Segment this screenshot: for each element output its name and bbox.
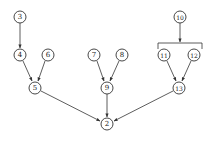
node-label: 12 bbox=[190, 52, 198, 59]
node-label: 7 bbox=[92, 51, 96, 59]
dependency-diagram: 3 4 6 5 7 8 9 10 11 12 13 2 bbox=[0, 0, 219, 141]
node-8: 8 bbox=[116, 49, 128, 61]
node-2: 2 bbox=[101, 118, 113, 130]
node-6: 6 bbox=[42, 49, 54, 61]
edge-8-9 bbox=[110, 61, 119, 81]
node-9: 9 bbox=[101, 82, 113, 94]
node-label: 2 bbox=[105, 120, 109, 128]
edge-6-5 bbox=[38, 61, 45, 81]
node-7: 7 bbox=[88, 49, 100, 61]
edge-13-2 bbox=[114, 91, 173, 121]
edge-7-9 bbox=[97, 61, 104, 81]
node-4: 4 bbox=[14, 49, 26, 61]
node-13: 13 bbox=[173, 82, 185, 94]
edge-11-13 bbox=[167, 61, 176, 81]
node-label: 9 bbox=[105, 84, 109, 92]
node-5: 5 bbox=[29, 82, 41, 94]
edge-12-13 bbox=[182, 61, 191, 81]
node-label: 6 bbox=[46, 51, 51, 59]
node-10: 10 bbox=[174, 11, 186, 23]
node-label: 8 bbox=[120, 51, 124, 59]
node-label: 5 bbox=[33, 84, 37, 92]
node-label: 10 bbox=[176, 14, 184, 21]
node-label: 3 bbox=[18, 13, 22, 21]
node-11: 11 bbox=[158, 49, 170, 61]
bracket-11-12 bbox=[158, 43, 202, 49]
edges bbox=[20, 23, 202, 121]
node-12: 12 bbox=[188, 49, 200, 61]
node-3: 3 bbox=[14, 11, 26, 23]
node-label: 4 bbox=[18, 51, 23, 59]
edge-4-5 bbox=[23, 61, 32, 81]
edge-5-2 bbox=[41, 91, 100, 121]
node-label: 11 bbox=[160, 52, 168, 59]
node-label: 13 bbox=[175, 85, 183, 92]
